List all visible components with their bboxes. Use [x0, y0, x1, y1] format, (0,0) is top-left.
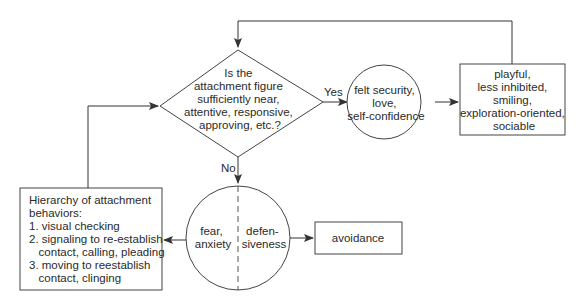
outcome-node: playful, less inhibited, smiling, explor…	[460, 64, 568, 135]
fear-line: anxiety	[195, 238, 232, 250]
decision-line: sufficiently near,	[197, 93, 279, 105]
decision-node: Is the attachment figure sufficiently ne…	[160, 50, 323, 157]
no-label: No	[221, 162, 236, 174]
hierarchy-node: Hierarchy of attachment behaviors: 1. vi…	[0, 0, 187, 290]
security-line: felt security,	[354, 84, 415, 96]
attachment-behavior-diagram: Is the attachment figure sufficiently ne…	[0, 0, 580, 304]
outcome-line: exploration-oriented,	[460, 107, 565, 119]
hierarchy-text: Hierarchy of attachment behaviors: 1. vi…	[0, 0, 187, 284]
defensiveness-line: siveness	[242, 238, 287, 250]
decision-line: approving, etc.?	[199, 119, 281, 131]
outcome-line: less inhibited,	[478, 81, 548, 93]
decision-line: attentive, responsive,	[184, 106, 293, 118]
outcome-line: smiling,	[493, 94, 532, 106]
decision-line: attachment figure	[194, 80, 283, 92]
decision-line: Is the	[224, 67, 252, 79]
hierarchy-line: 2. signaling to re-establish	[29, 233, 163, 245]
avoidance-node: avoidance	[315, 222, 402, 254]
security-line: love,	[372, 97, 396, 109]
fear-line: fear,	[200, 225, 222, 237]
defensiveness-line: defen-	[246, 225, 279, 237]
feedback-loop-connector	[238, 21, 512, 64]
avoidance-text: avoidance	[332, 232, 384, 244]
fear-node: fear, anxiety defen- siveness	[186, 186, 290, 290]
hierarchy-line: 1. visual checking	[29, 220, 120, 232]
hierarchy-line: contact, calling, pleading	[29, 246, 165, 258]
security-node: felt security, love, self-confidence	[347, 65, 425, 139]
outcome-line: playful,	[494, 68, 530, 80]
hierarchy-line: behaviors:	[29, 207, 82, 219]
hierarchy-line: 3. moving to reestablish	[29, 259, 150, 271]
yes-label: Yes	[324, 86, 343, 98]
defensiveness-text: defen- siveness	[242, 225, 287, 250]
outcome-line: sociable	[493, 120, 535, 132]
hierarchy-line: contact, clinging	[29, 272, 121, 284]
hierarchy-line: Hierarchy of attachment	[29, 194, 152, 206]
security-line: self-confidence	[347, 110, 424, 122]
hierarchy-to-decision-connector	[88, 106, 158, 188]
